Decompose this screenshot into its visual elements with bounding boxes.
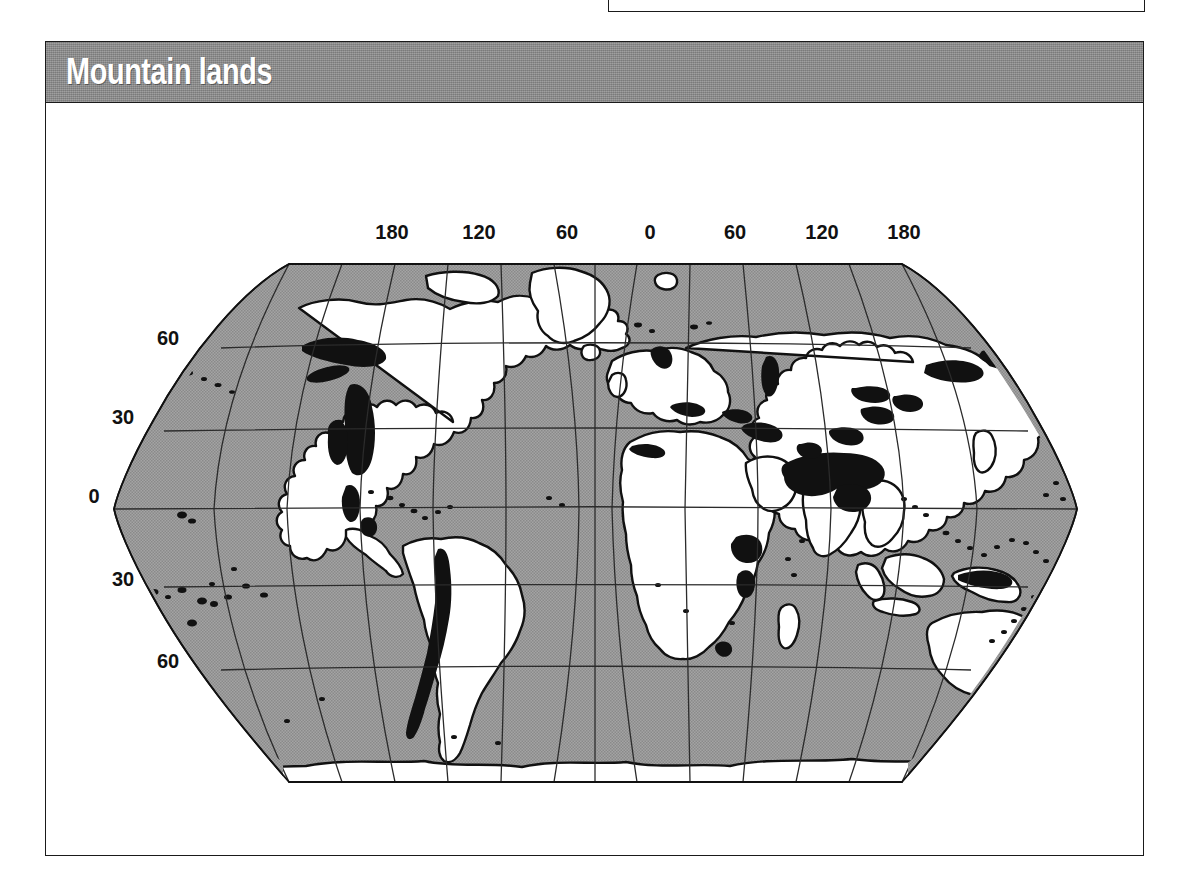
world-map-svg: 180 120 60 0 60 120 180 60 30 0 30 60 [46, 103, 1145, 855]
land-japan [973, 431, 995, 473]
mountain-great-dividing-range [1014, 664, 1031, 684]
land-new-zealand-south [1039, 706, 1065, 738]
mountain-nz-north [1060, 688, 1077, 703]
latitude-label-30n: 30 [112, 406, 134, 428]
land-tasmania [1002, 704, 1020, 721]
longitude-label-120e: 120 [805, 221, 838, 243]
longitude-label-180e: 180 [887, 221, 920, 243]
latitude-label-60n: 60 [157, 327, 179, 349]
longitude-labels: 180 120 60 0 60 120 180 [375, 221, 920, 243]
mountain-southern-alps-nz [1039, 708, 1062, 737]
land-svalbard [655, 273, 677, 290]
mountain-sierra-cascades [328, 420, 348, 465]
title-banner: Mountain lands [46, 42, 1143, 103]
partial-box-above [608, 0, 1145, 12]
land-iceland [581, 345, 600, 361]
page-title: Mountain lands [66, 48, 272, 96]
latitude-label-0: 0 [88, 485, 99, 507]
longitude-label-0: 0 [644, 221, 655, 243]
latitude-label-30s: 30 [112, 568, 134, 590]
longitude-label-180w: 180 [375, 221, 408, 243]
figure-frame: Mountain lands [45, 41, 1144, 856]
land-new-zealand-north [1060, 685, 1078, 707]
land-antarctica [108, 759, 1086, 855]
land-british-isles [608, 373, 627, 397]
longitude-label-60e: 60 [724, 221, 746, 243]
latitude-label-60s: 60 [157, 650, 179, 672]
mountain-tasmania-highlands [1000, 704, 1016, 718]
world-map: 180 120 60 0 60 120 180 60 30 0 30 60 [46, 103, 1145, 855]
longitude-label-120w: 120 [462, 221, 495, 243]
longitude-label-60w: 60 [556, 221, 578, 243]
